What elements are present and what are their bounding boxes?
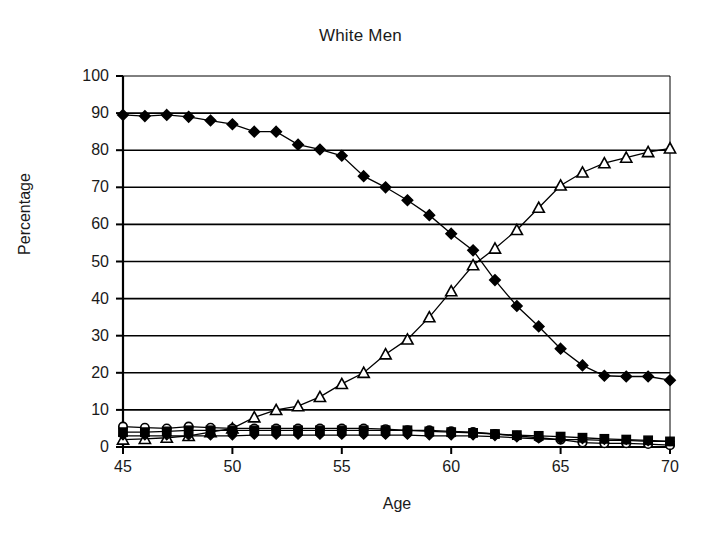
data-point-marker: [555, 180, 566, 190]
chart-figure: White Men Percentage Age 100908070605040…: [0, 0, 721, 542]
data-point-marker: [249, 126, 259, 136]
series-line: [123, 115, 670, 380]
data-point-marker: [292, 401, 303, 411]
data-point-marker: [336, 378, 347, 388]
data-point-marker: [577, 360, 587, 370]
data-point-marker: [162, 110, 172, 120]
series-line: [123, 148, 670, 439]
data-point-marker: [227, 119, 237, 129]
data-point-marker: [664, 143, 675, 153]
data-point-marker: [380, 182, 390, 192]
data-point-marker: [314, 391, 325, 401]
data-point-marker: [315, 144, 325, 154]
data-point-marker: [118, 110, 128, 120]
data-point-marker: [249, 412, 260, 422]
data-point-marker: [468, 245, 478, 255]
data-point-marker: [271, 126, 281, 136]
plot-area: [0, 0, 721, 542]
data-point-marker: [205, 115, 215, 125]
data-point-marker: [293, 139, 303, 149]
data-point-marker: [577, 167, 588, 177]
data-point-marker: [402, 195, 412, 205]
data-point-marker: [380, 349, 391, 359]
data-point-marker: [665, 375, 675, 385]
